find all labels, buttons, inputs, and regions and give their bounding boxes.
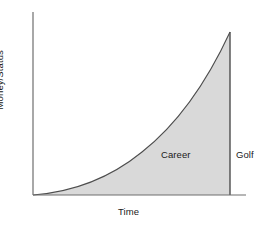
- career-vs-golf-area-chart: Money/Status Time Career Golf: [0, 0, 276, 228]
- career-area-fill: [33, 32, 230, 195]
- career-annotation-label: Career: [161, 150, 191, 160]
- chart-canvas: [0, 0, 276, 228]
- golf-annotation-label: Golf: [236, 150, 254, 160]
- x-axis-label: Time: [118, 207, 139, 217]
- y-axis-label-text: Money/Status: [0, 50, 5, 109]
